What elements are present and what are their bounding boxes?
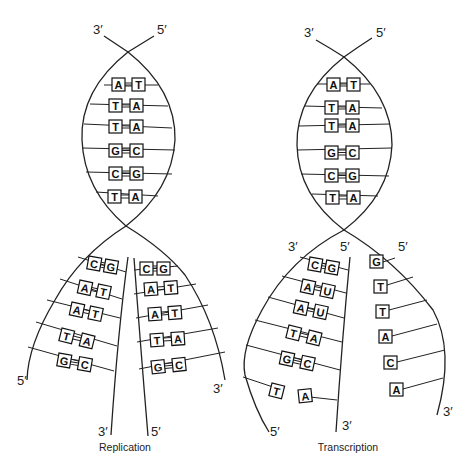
transcription-left-bottom-5prime-label: 5′ bbox=[270, 424, 280, 439]
base-pair: C G bbox=[140, 262, 170, 275]
base-pair: A T bbox=[69, 302, 103, 321]
svg-text:T: T bbox=[171, 307, 179, 319]
svg-text:C: C bbox=[174, 359, 183, 372]
svg-text:G: G bbox=[111, 145, 120, 157]
transcription-helix-strand-b bbox=[244, 38, 392, 432]
svg-text:T: T bbox=[379, 306, 386, 318]
base-pair: A T bbox=[148, 306, 182, 321]
svg-text:G: G bbox=[372, 256, 381, 268]
svg-text:T: T bbox=[328, 102, 335, 114]
base-pair: G C bbox=[109, 144, 143, 157]
base-pair: T A bbox=[109, 99, 143, 112]
replication-left-inner-3prime-label: 3′ bbox=[98, 424, 108, 439]
svg-text:A: A bbox=[133, 121, 141, 133]
single-base: C bbox=[384, 356, 397, 369]
replication-left-fork-pairs: C G A T A T T A G C bbox=[57, 256, 119, 372]
base-pair: C G bbox=[325, 169, 359, 182]
base-pair: T A bbox=[286, 325, 322, 346]
base-pair: T A bbox=[150, 332, 185, 347]
transcription-top-5prime-label: 5′ bbox=[376, 25, 386, 40]
svg-text:A: A bbox=[133, 100, 141, 112]
replication-right-inner-5prime-label: 5′ bbox=[151, 424, 161, 439]
single-base: A bbox=[379, 330, 392, 343]
base-pair: T A bbox=[109, 120, 143, 133]
replication-top-5prime-label: 5′ bbox=[157, 22, 167, 37]
transcription-right-bottom-3prime-label: 3′ bbox=[443, 404, 453, 419]
svg-text:A: A bbox=[174, 333, 183, 346]
svg-text:T: T bbox=[377, 281, 384, 293]
svg-text:C: C bbox=[143, 263, 151, 275]
single-base: A bbox=[390, 383, 403, 396]
single-base: T bbox=[374, 280, 387, 293]
replication-right-fork-pairs: C G A T A T T A G C bbox=[140, 262, 186, 374]
svg-text:G: G bbox=[132, 168, 141, 180]
replication-top-3prime-label: 3′ bbox=[93, 22, 103, 37]
svg-text:C: C bbox=[133, 145, 141, 157]
svg-text:A: A bbox=[330, 79, 338, 91]
svg-text:T: T bbox=[112, 121, 119, 133]
svg-text:C: C bbox=[112, 168, 120, 180]
svg-text:C: C bbox=[387, 357, 395, 369]
svg-text:A: A bbox=[349, 102, 357, 114]
replication-helix-strand-a bbox=[82, 36, 225, 380]
svg-text:T: T bbox=[153, 334, 161, 346]
svg-text:A: A bbox=[147, 283, 156, 296]
svg-text:G: G bbox=[159, 263, 168, 275]
svg-text:G: G bbox=[153, 361, 163, 374]
base-pair: T A bbox=[325, 101, 359, 114]
svg-text:T: T bbox=[135, 79, 142, 91]
svg-text:G: G bbox=[348, 170, 357, 182]
base-pair: G C bbox=[151, 357, 186, 373]
svg-text:A: A bbox=[382, 331, 390, 343]
transcription-rna-bottom-3prime-label: 3′ bbox=[342, 418, 352, 433]
base-pair: C G bbox=[87, 256, 119, 274]
base-pair: G C bbox=[325, 146, 359, 159]
base-pair: G C bbox=[57, 353, 93, 372]
svg-text:T: T bbox=[167, 282, 175, 294]
transcription-right-top-5prime-label: 5′ bbox=[398, 239, 408, 254]
svg-text:A: A bbox=[132, 191, 140, 203]
svg-text:T: T bbox=[350, 79, 357, 91]
svg-text:C: C bbox=[328, 170, 336, 182]
base-pair: A T bbox=[144, 281, 178, 296]
svg-text:A: A bbox=[151, 308, 160, 321]
transcription-right-fork-bases: G T T A C A bbox=[370, 255, 403, 396]
transcription-helix-pairs: A T T A T A G C C G bbox=[325, 78, 360, 204]
transcription-left-fork-pairs: C G A U A U T A G C bbox=[269, 257, 340, 403]
svg-text:A: A bbox=[393, 384, 401, 396]
transcription-left-top-3prime-label: 3′ bbox=[288, 239, 298, 254]
base-pair: C G bbox=[109, 167, 143, 180]
dna-diagram: 3′ 5′ A T T A bbox=[0, 0, 469, 468]
single-base: T bbox=[376, 305, 389, 318]
replication-helix-strand-b bbox=[27, 36, 175, 380]
transcription-rna-top-5prime-label: 5′ bbox=[340, 239, 350, 254]
unpaired-base: T bbox=[269, 383, 285, 399]
base-pair: A U bbox=[300, 279, 335, 299]
svg-text:A: A bbox=[349, 120, 357, 132]
svg-text:A: A bbox=[301, 390, 310, 403]
svg-text:T: T bbox=[328, 120, 335, 132]
replication-helix-pairs: A T T A T A G C C G bbox=[108, 78, 145, 203]
svg-text:A: A bbox=[115, 79, 123, 91]
replication-right-outer-3prime-label: 3′ bbox=[213, 381, 223, 396]
svg-text:A: A bbox=[350, 192, 358, 204]
replication-panel: 3′ 5′ A T T A bbox=[17, 22, 225, 453]
unpaired-base: A bbox=[298, 389, 312, 403]
transcription-helix-strand-a bbox=[297, 40, 445, 415]
transcription-helix-rungs bbox=[297, 84, 392, 196]
replication-caption: Replication bbox=[99, 441, 151, 453]
replication-helix-rungs bbox=[82, 85, 175, 196]
svg-text:T: T bbox=[111, 191, 118, 203]
replication-left-outer-5prime-label: 5′ bbox=[17, 373, 27, 388]
replication-new-strand-left bbox=[111, 257, 128, 435]
svg-text:T: T bbox=[329, 192, 336, 204]
svg-text:C: C bbox=[349, 147, 357, 159]
transcription-top-3prime-label: 3′ bbox=[304, 25, 314, 40]
single-base: G bbox=[370, 255, 383, 268]
svg-text:T: T bbox=[112, 100, 119, 112]
base-pair: C G bbox=[308, 257, 340, 275]
transcription-panel: 3′ 5′ A T T A T bbox=[243, 25, 453, 453]
svg-text:G: G bbox=[327, 147, 336, 159]
base-pair: G C bbox=[279, 351, 315, 371]
transcription-caption: Transcription bbox=[318, 441, 378, 453]
